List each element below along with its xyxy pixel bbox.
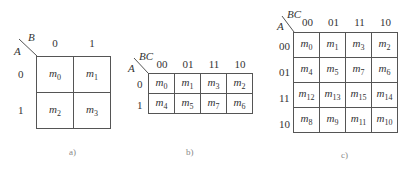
- minterm-cell: m6: [227, 94, 253, 114]
- minterm-cell: m14: [372, 83, 398, 108]
- minterm-cell: m3: [74, 93, 111, 129]
- minterm-cell: m2: [37, 93, 74, 129]
- minterm-cell: m1: [175, 74, 201, 94]
- caption: a): [69, 147, 76, 157]
- minterm-cell: m0: [149, 74, 175, 94]
- row-label: 0: [18, 68, 24, 80]
- row-var-label: A: [277, 20, 284, 32]
- kmap-grid: m0 m1 m3 m2 m4 m5 m7 m6 m12 m13 m15 m14 …: [293, 32, 398, 133]
- minterm-cell: m3: [201, 74, 227, 94]
- minterm-cell: m0: [37, 57, 74, 93]
- row-label: 11: [279, 92, 290, 104]
- col-label: 10: [373, 16, 398, 28]
- minterm-cell: m7: [346, 58, 372, 83]
- minterm-cell: m9: [320, 108, 346, 133]
- minterm-cell: m5: [175, 94, 201, 114]
- minterm-cell: m4: [149, 94, 175, 114]
- row-label: 01: [279, 66, 290, 78]
- minterm-cell: m6: [372, 58, 398, 83]
- minterm-cell: m3: [346, 33, 372, 58]
- minterm-cell: m13: [320, 83, 346, 108]
- minterm-cell: m0: [294, 33, 320, 58]
- minterm-cell: m2: [372, 33, 398, 58]
- row-label: 0: [137, 78, 143, 90]
- col-label: 01: [321, 16, 346, 28]
- caption: b): [186, 147, 194, 157]
- col-label: 10: [228, 58, 252, 70]
- col-label: 00: [150, 58, 174, 70]
- minterm-cell: m12: [294, 83, 320, 108]
- col-label: 0: [50, 37, 60, 49]
- col-label: 1: [87, 37, 97, 49]
- col-var-label: B: [28, 31, 35, 43]
- row-label: 10: [279, 118, 290, 130]
- col-label: 01: [176, 58, 200, 70]
- kmap-grid: m0 m1 m2 m3: [36, 56, 111, 129]
- row-label: 1: [18, 104, 24, 116]
- caption: c): [341, 150, 348, 160]
- kmap-grid: m0 m1 m3 m2 m4 m5 m7 m6: [148, 73, 253, 114]
- row-label: 1: [137, 99, 143, 111]
- col-label: 11: [347, 16, 372, 28]
- row-label: 00: [279, 40, 290, 52]
- minterm-cell: m5: [320, 58, 346, 83]
- minterm-cell: m7: [201, 94, 227, 114]
- minterm-cell: m8: [294, 108, 320, 133]
- col-label: 00: [295, 16, 320, 28]
- col-label: 11: [202, 58, 226, 70]
- row-var-label: A: [128, 62, 135, 74]
- minterm-cell: m10: [372, 108, 398, 133]
- minterm-cell: m1: [74, 57, 111, 93]
- minterm-cell: m1: [320, 33, 346, 58]
- minterm-cell: m2: [227, 74, 253, 94]
- minterm-cell: m11: [346, 108, 372, 133]
- row-var-label: A: [14, 45, 21, 57]
- minterm-cell: m4: [294, 58, 320, 83]
- minterm-cell: m15: [346, 83, 372, 108]
